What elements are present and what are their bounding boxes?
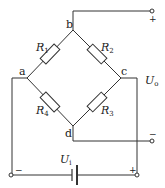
- node-d-label: d: [65, 127, 72, 140]
- node-a-label: a: [19, 65, 26, 78]
- output-plus-sign: +: [149, 14, 157, 24]
- input-voltage-label: Ui: [60, 153, 72, 167]
- battery-icon: [72, 165, 77, 185]
- output-minus-terminal[interactable]: [150, 139, 154, 143]
- input-minus-terminal[interactable]: [9, 173, 13, 177]
- input-plus-sign: +: [129, 165, 137, 175]
- input-minus-sign: −: [15, 165, 23, 175]
- node-c-label: c: [121, 65, 127, 78]
- output-voltage-label: Uo: [145, 74, 159, 88]
- output-plus-terminal[interactable]: [150, 9, 154, 13]
- bridge-circuit-diagram: b a c d R1 R2 R3 R4 Uo + − Ui − +: [0, 0, 165, 188]
- input-wires: [12, 78, 137, 175]
- output-wires: [73, 11, 152, 141]
- r2-label: R2: [100, 41, 114, 55]
- node-b-label: b: [66, 18, 73, 31]
- r3-label: R3: [100, 104, 114, 118]
- output-minus-sign: −: [149, 129, 157, 139]
- r4-label: R4: [35, 104, 49, 118]
- r1-label: R1: [35, 41, 49, 55]
